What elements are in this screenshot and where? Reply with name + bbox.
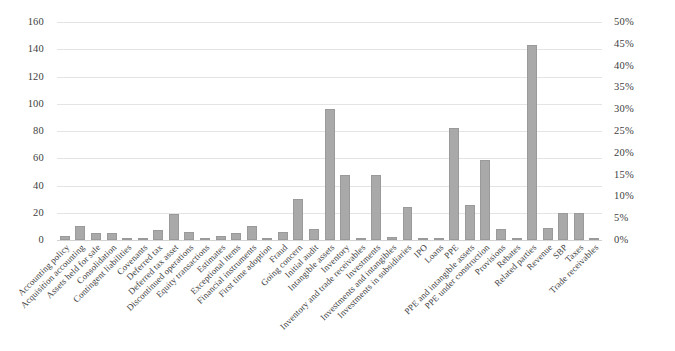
y-axis-right-tick: 25% <box>614 126 634 136</box>
bar-slot <box>182 22 198 240</box>
bar-chart: 020406080100120140160 0%5%10%15%20%25%30… <box>0 0 675 351</box>
bar-slot <box>353 22 369 240</box>
y-axis-left-tick: 40 <box>33 181 44 191</box>
bar[interactable] <box>200 238 210 240</box>
bar-slot <box>446 22 462 240</box>
bar-slot <box>571 22 587 240</box>
bar-slot <box>197 22 213 240</box>
plot-area <box>57 22 602 240</box>
bar-slot <box>88 22 104 240</box>
bar-slot <box>291 22 307 240</box>
bar[interactable] <box>169 214 179 240</box>
bar-slot <box>478 22 494 240</box>
y-axis-right-tick: 10% <box>614 191 634 201</box>
bar[interactable] <box>387 237 397 240</box>
y-axis-left-tick: 140 <box>28 44 44 54</box>
bar[interactable] <box>527 45 537 240</box>
y-axis-right-tick: 15% <box>614 170 634 180</box>
bar-slot <box>556 22 572 240</box>
bar[interactable] <box>418 238 428 240</box>
bar-slot <box>57 22 73 240</box>
bar[interactable] <box>340 175 350 240</box>
bar-slot <box>104 22 120 240</box>
bar[interactable] <box>75 226 85 240</box>
bar-slot <box>306 22 322 240</box>
bar-slot <box>493 22 509 240</box>
bar-slot <box>462 22 478 240</box>
bar[interactable] <box>231 233 241 240</box>
bar-slot <box>540 22 556 240</box>
bar-slot <box>431 22 447 240</box>
bar[interactable] <box>262 238 272 240</box>
bar[interactable] <box>153 230 163 240</box>
bar-series <box>57 22 602 240</box>
bar[interactable] <box>325 109 335 240</box>
y-axis-right-tick: 45% <box>614 39 634 49</box>
bar[interactable] <box>309 229 319 240</box>
bar-slot <box>400 22 416 240</box>
y-axis-left-tick: 160 <box>28 17 44 27</box>
bar[interactable] <box>91 233 101 240</box>
bar-slot <box>119 22 135 240</box>
bar-slot <box>337 22 353 240</box>
y-axis-left-tick: 0 <box>39 235 44 245</box>
bar[interactable] <box>512 238 522 240</box>
bar[interactable] <box>60 236 70 240</box>
bar-slot <box>260 22 276 240</box>
y-axis-left-tick: 20 <box>33 208 44 218</box>
bar-slot <box>166 22 182 240</box>
bar[interactable] <box>589 238 599 240</box>
bar[interactable] <box>278 232 288 240</box>
bar-slot <box>213 22 229 240</box>
bar[interactable] <box>403 207 413 240</box>
bar[interactable] <box>356 238 366 240</box>
y-axis-left-tick: 100 <box>28 99 44 109</box>
bar[interactable] <box>465 205 475 240</box>
bar[interactable] <box>558 213 568 240</box>
y-axis-left-tick: 60 <box>33 153 44 163</box>
y-axis-right-tick: 20% <box>614 148 634 158</box>
bar[interactable] <box>371 175 381 240</box>
bar[interactable] <box>496 229 506 240</box>
bar-slot <box>415 22 431 240</box>
bar[interactable] <box>107 233 117 240</box>
y-axis-right: 0%5%10%15%20%25%30%35%40%45%50% <box>606 22 661 240</box>
bar-slot <box>73 22 89 240</box>
bar-slot <box>244 22 260 240</box>
bar-slot <box>384 22 400 240</box>
x-axis-labels: Accounting policyAcquisition accountingA… <box>57 241 602 351</box>
bar[interactable] <box>543 228 553 240</box>
y-axis-left-tick: 120 <box>28 72 44 82</box>
bar-slot <box>587 22 603 240</box>
bar-slot <box>150 22 166 240</box>
bar[interactable] <box>293 199 303 240</box>
bar[interactable] <box>247 226 257 240</box>
bar-slot <box>369 22 385 240</box>
bar[interactable] <box>480 160 490 240</box>
bar-slot <box>135 22 151 240</box>
bar-slot <box>509 22 525 240</box>
y-axis-right-tick: 50% <box>614 17 634 27</box>
bar-slot <box>524 22 540 240</box>
y-axis-right-tick: 5% <box>614 213 628 223</box>
bar[interactable] <box>138 238 148 240</box>
bar-slot <box>275 22 291 240</box>
bar[interactable] <box>122 238 132 240</box>
y-axis-right-tick: 0% <box>614 235 628 245</box>
bar-slot <box>322 22 338 240</box>
bar-slot <box>228 22 244 240</box>
y-axis-right-tick: 30% <box>614 104 634 114</box>
y-axis-right-tick: 40% <box>614 61 634 71</box>
y-axis-left-tick: 80 <box>33 126 44 136</box>
bar[interactable] <box>574 213 584 240</box>
bar[interactable] <box>216 236 226 240</box>
y-axis-left: 020406080100120140160 <box>0 22 50 240</box>
y-axis-right-tick: 35% <box>614 82 634 92</box>
bar[interactable] <box>434 238 444 240</box>
bar[interactable] <box>449 128 459 240</box>
bar[interactable] <box>184 232 194 240</box>
